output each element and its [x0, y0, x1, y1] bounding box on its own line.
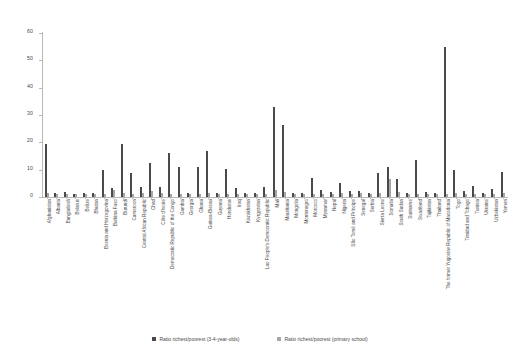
x-tick-label: Morocco	[313, 199, 318, 217]
x-tick-label: Afghanistan	[47, 199, 52, 223]
x-tick-label: Mali	[275, 199, 280, 207]
x-tick-label: Mauritania	[285, 199, 290, 220]
bar-series-container	[42, 33, 508, 197]
bar-group	[337, 33, 347, 197]
bar-0	[415, 160, 417, 197]
bar-group	[185, 33, 195, 197]
bar-group	[299, 33, 309, 197]
x-tick-label: São Tomé and Príncipe	[351, 199, 356, 247]
x-label-slot: Yemen	[503, 199, 520, 207]
bar-group	[90, 33, 100, 197]
bar-group	[213, 33, 223, 197]
bar-0	[206, 151, 208, 197]
y-tick-label: 10	[27, 165, 33, 171]
x-tick-label: Belarus	[75, 199, 80, 215]
bar-group	[80, 33, 90, 197]
x-tick-label: Nigeria	[342, 199, 347, 214]
bar-group	[375, 33, 385, 197]
bar-group	[52, 33, 62, 197]
x-tick-label: Democratic Republic of the Congo	[170, 199, 175, 269]
legend-swatch-icon	[152, 337, 156, 341]
bar-group	[280, 33, 290, 197]
x-tick-label: Yemen	[503, 199, 508, 213]
x-tick-label: Swaziland	[418, 199, 423, 220]
x-tick-label: Sierra Leone	[380, 199, 385, 225]
bar-group	[61, 33, 71, 197]
x-tick-label: Burkina Faso	[113, 199, 118, 226]
y-tick-label: 50	[27, 55, 33, 61]
bar-group	[403, 33, 413, 197]
bar-group	[327, 33, 337, 197]
bar-group	[498, 33, 508, 197]
bar-0	[102, 170, 104, 197]
bar-group	[270, 33, 280, 197]
x-tick-label: The former Yugoslav Republic of Macedoni…	[446, 199, 451, 289]
y-tick-label: 30	[27, 110, 33, 116]
bar-1	[113, 190, 115, 197]
legend-label: Ratio richest/poorest (3-4-year-olds)	[159, 336, 239, 342]
x-tick-label: Senegal	[361, 199, 366, 216]
chart-legend: Ratio richest/poorest (3-4-year-olds)Rat…	[0, 336, 520, 342]
bar-group	[489, 33, 499, 197]
bar-1	[389, 179, 391, 197]
bar-chart: 0102030405060 AfghanistanAlbaniaBanglade…	[0, 0, 520, 358]
x-axis-labels: AfghanistanAlbaniaBangladeshBelarusBeliz…	[42, 199, 508, 309]
x-tick-label: Albania	[56, 199, 61, 214]
bar-group	[308, 33, 318, 197]
bar-group	[261, 33, 271, 197]
x-tick-label: Togo	[456, 199, 461, 209]
bar-0	[197, 167, 199, 197]
bar-group	[194, 33, 204, 197]
x-tick-label: Trinidad and Tobago	[465, 199, 470, 241]
x-tick-label: Central African Republic	[142, 199, 147, 248]
bar-group	[422, 33, 432, 197]
y-tick-label: 40	[27, 83, 33, 89]
bar-group	[346, 33, 356, 197]
x-tick-label: Honduras	[227, 199, 232, 219]
x-tick-label: Tunisia	[475, 199, 480, 214]
legend-item[interactable]: Ratio richest/poorest (3-4-year-olds)	[152, 336, 239, 342]
bar-group	[451, 33, 461, 197]
x-tick-label: South Sudan	[399, 199, 404, 226]
bar-group	[156, 33, 166, 197]
legend-item[interactable]: Ratio richest/poorest (primary school)	[277, 336, 367, 342]
bar-0	[121, 144, 123, 197]
x-tick-label: Belize	[85, 199, 90, 212]
x-tick-label: Montenegro	[304, 199, 309, 224]
x-tick-label: Suriname	[408, 199, 413, 219]
bar-group	[242, 33, 252, 197]
bar-group	[118, 33, 128, 197]
x-tick-label: Bosnia and Herzegovina	[104, 199, 109, 249]
bar-group	[470, 33, 480, 197]
x-tick-label: Serbia	[370, 199, 375, 212]
y-tick-label: 60	[27, 28, 33, 34]
bar-group	[166, 33, 176, 197]
bar-0	[178, 167, 180, 197]
bar-group	[365, 33, 375, 197]
bar-group	[223, 33, 233, 197]
bar-group	[204, 33, 214, 197]
bar-group	[441, 33, 451, 197]
x-tick-label: Guinea-Bissau	[208, 199, 213, 229]
bar-0	[282, 125, 284, 197]
bar-group	[42, 33, 52, 197]
bar-group	[318, 33, 328, 197]
legend-swatch-icon	[277, 337, 281, 341]
x-tick-label: Mongolia	[294, 199, 299, 218]
y-tick-mark	[39, 197, 42, 198]
x-tick-label: Chad	[151, 199, 156, 210]
bar-1	[275, 190, 277, 197]
x-tick-label: Kyrgyzstan	[256, 199, 261, 222]
x-tick-label: Gambia	[180, 199, 185, 215]
bar-group	[460, 33, 470, 197]
bar-group	[479, 33, 489, 197]
x-tick-label: Lao People's Democratic Republic	[265, 199, 270, 269]
bar-group	[232, 33, 242, 197]
bar-group	[109, 33, 119, 197]
x-tick-label: Bangladesh	[66, 199, 71, 223]
x-tick-label: Georgia	[189, 199, 194, 215]
bar-group	[356, 33, 366, 197]
bar-group	[384, 33, 394, 197]
legend-label: Ratio richest/poorest (primary school)	[284, 336, 367, 342]
bar-group	[394, 33, 404, 197]
